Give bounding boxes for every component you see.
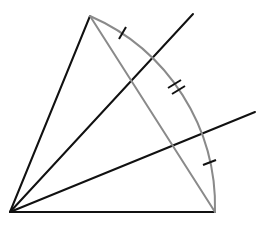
tick-mark-double-a	[168, 80, 181, 88]
chord-line	[90, 16, 215, 212]
left-side-line	[10, 16, 90, 212]
upper-ray	[10, 14, 193, 212]
geometry-diagram	[0, 0, 265, 225]
lower-ray	[10, 112, 255, 212]
